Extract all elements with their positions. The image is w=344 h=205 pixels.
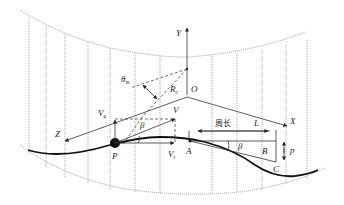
grid-lines — [29, 17, 307, 193]
helix-diagram: Y X Z O θm Rc P Va Vt V β A 周长 L β B C — [0, 0, 344, 205]
velocity-label: V — [173, 105, 180, 115]
z-axis-label: Z — [55, 129, 61, 139]
theta-label: θm — [121, 74, 129, 85]
pitch-label: p — [289, 145, 295, 155]
point-p-label: P — [111, 151, 118, 161]
upper-surface-curve — [20, 10, 305, 57]
radius-line — [142, 69, 187, 117]
point-a-label: A — [185, 146, 192, 156]
velocity-vector — [115, 119, 175, 143]
velocity-t-label: Vt — [168, 149, 176, 160]
length-label: L — [253, 118, 259, 128]
beta-arc-right — [228, 141, 229, 149]
x-axis-label: X — [289, 116, 296, 126]
beta-label-right: β — [237, 141, 243, 151]
origin-label: O — [191, 84, 198, 94]
theta-arrow — [143, 85, 157, 99]
circumference-label: 周长 — [215, 118, 231, 128]
velocity-a-label: Va — [98, 108, 107, 119]
y-axis-label: Y — [176, 28, 182, 38]
beta-label-left: β — [139, 120, 145, 130]
point-c-label: C — [273, 164, 280, 174]
radius-label: Rc — [169, 84, 179, 95]
point-b-label: B — [262, 146, 268, 156]
